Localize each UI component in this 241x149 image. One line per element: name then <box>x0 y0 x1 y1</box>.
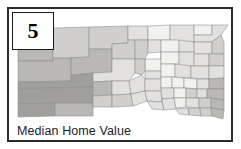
county-tripp <box>145 91 162 102</box>
county-aurora <box>174 88 186 98</box>
county-hand <box>175 64 191 78</box>
map-panel: 5 Median Home Value <box>7 7 233 142</box>
county-dewey <box>135 40 148 59</box>
county-hyde <box>161 64 175 77</box>
county-pennington <box>18 87 93 104</box>
county-sully-top <box>161 52 179 64</box>
county-butte <box>18 58 71 82</box>
county-campbell <box>128 26 148 40</box>
county-hughes <box>145 71 161 79</box>
county-miner <box>197 79 209 89</box>
county-mellette <box>131 91 147 106</box>
county-spink <box>179 52 194 66</box>
county-custer <box>18 103 55 117</box>
county-hutchinson <box>186 98 199 108</box>
county-buffalo <box>161 77 172 88</box>
county-deuel <box>209 66 224 79</box>
county-brule <box>161 88 174 99</box>
county-fall-river <box>55 103 93 116</box>
county-marshall <box>194 25 212 35</box>
county-bennett <box>93 95 112 107</box>
map-caption-label: Median Home Value <box>17 124 131 138</box>
county-jackson <box>112 81 131 95</box>
county-edmunds <box>161 40 179 52</box>
county-shannon <box>93 81 112 96</box>
panel-number-badge: 5 <box>12 12 54 50</box>
county-day <box>194 42 212 54</box>
county-bon-homme <box>176 108 189 115</box>
county-walworth <box>148 40 161 53</box>
county-yankton <box>188 108 201 116</box>
county-brown <box>170 25 194 42</box>
county-potter <box>145 52 161 71</box>
county-faulk-north <box>179 40 194 52</box>
county-perkins <box>53 27 89 58</box>
county-charles-mix <box>162 98 176 110</box>
county-jerauld <box>172 77 184 88</box>
county-gregory <box>147 101 164 110</box>
map-caption: Median Home Value <box>9 121 231 140</box>
county-turner <box>199 98 211 108</box>
county-codington <box>209 54 224 66</box>
county-union <box>211 108 224 119</box>
county-davison <box>186 88 197 98</box>
county-clark <box>194 54 209 66</box>
county-mcpherson <box>148 25 170 40</box>
county-clay <box>200 108 212 116</box>
panel-number-label: 5 <box>28 20 39 42</box>
county-brookings <box>209 78 224 89</box>
county-sanborn <box>184 78 197 89</box>
county-hanson <box>197 89 207 98</box>
county-douglas <box>174 98 186 108</box>
county-todd <box>112 94 133 107</box>
county-beadle <box>191 66 209 79</box>
county-lyman <box>145 79 161 91</box>
county-stanley <box>135 59 145 75</box>
